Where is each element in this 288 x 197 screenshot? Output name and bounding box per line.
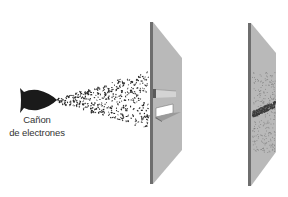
electron-gun-icon	[20, 88, 57, 113]
gun-label-line2: de electrones	[0, 127, 74, 139]
double-slit-plate	[150, 22, 182, 184]
detection-screen	[248, 23, 276, 186]
diagram-canvas	[0, 0, 288, 197]
diagram-stage: Cañon de electrones	[0, 0, 288, 197]
gun-label-line1: Cañon	[0, 114, 74, 126]
